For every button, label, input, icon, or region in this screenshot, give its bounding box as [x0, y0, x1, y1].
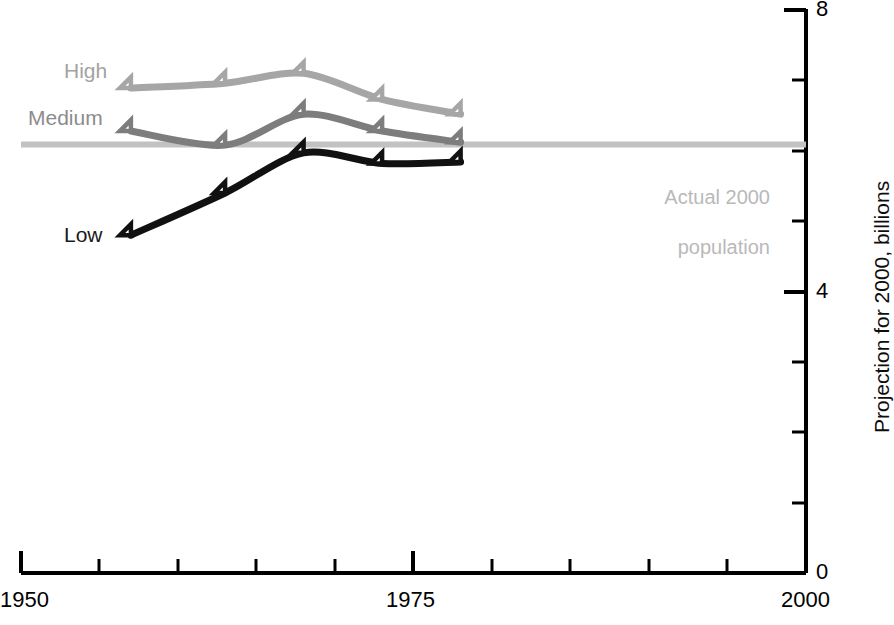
y-tick-label-0: 0: [816, 559, 828, 585]
y-tick-label-8: 8: [816, 0, 828, 22]
marker-low-1978: [450, 151, 461, 162]
marker-medium-1957: [120, 120, 131, 131]
marker-low-1963: [214, 182, 225, 193]
series-label-low: Low: [64, 223, 103, 247]
x-axis-major-ticks: [21, 551, 806, 573]
marker-high-1963: [214, 72, 225, 83]
marker-medium-1963: [214, 134, 225, 145]
annotation-actual-2000-population: Actual 2000 population: [566, 160, 770, 285]
data-series-group: [120, 62, 461, 235]
series-low: [120, 142, 461, 235]
series-medium: [120, 103, 461, 145]
x-tick-label-1975: 1975: [386, 587, 435, 613]
y-axis-major-ticks: [784, 10, 806, 573]
y-tick-label-4: 4: [816, 278, 828, 304]
y-axis-title: Projection for 2000, billions: [870, 181, 894, 433]
marker-high-1978: [450, 103, 461, 114]
marker-low-1957: [120, 224, 131, 235]
series-high: [120, 62, 461, 114]
x-tick-label-2000: 2000: [781, 587, 830, 613]
marker-low-1973: [371, 152, 382, 163]
annotation-line-2: population: [566, 235, 770, 260]
marker-medium-1978: [450, 131, 461, 142]
marker-high-1968: [293, 62, 304, 73]
x-tick-label-1950: 1950: [0, 587, 49, 613]
series-label-medium: Medium: [28, 106, 103, 130]
marker-medium-1968: [293, 103, 304, 114]
series-label-high: High: [64, 59, 107, 83]
marker-high-1957: [120, 77, 131, 88]
annotation-line-1: Actual 2000: [566, 185, 770, 210]
